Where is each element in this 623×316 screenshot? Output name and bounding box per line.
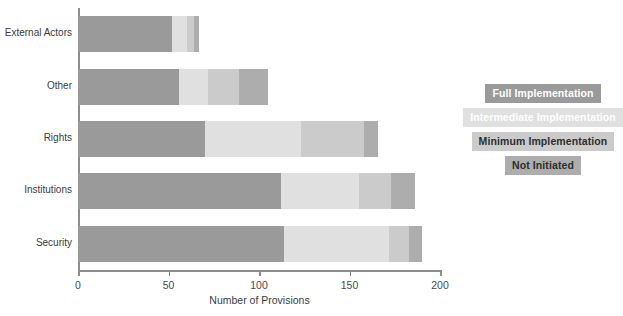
bar-segment[interactable] [391,173,415,209]
legend-item-2[interactable]: Minimum Implementation [472,132,615,151]
category-label-external-actors: External Actors [0,27,72,38]
bar-segment[interactable] [364,121,378,157]
bar-segment[interactable] [301,121,364,157]
x-axis-tick-label: 100 [250,279,268,291]
bar-segment[interactable] [172,16,186,52]
category-label-rights: Rights [0,132,72,143]
x-axis-tick [78,270,80,276]
bar-segment[interactable] [205,121,301,157]
x-axis-tick-label: 150 [341,279,359,291]
bar-segment[interactable] [208,69,239,105]
x-axis-tick [259,270,261,276]
legend-item-1[interactable]: Intermediate Implementation [463,108,623,127]
bar-external-actors[interactable] [78,16,199,52]
bar-other[interactable] [78,69,268,105]
bar-segment[interactable] [389,226,409,262]
x-axis-tick [440,270,442,276]
bar-segment[interactable] [239,69,268,105]
bar-segment[interactable] [78,16,172,52]
bar-segment[interactable] [78,173,281,209]
bar-segment[interactable] [78,121,205,157]
bar-segment[interactable] [281,173,359,209]
category-label-other: Other [0,80,72,91]
bar-institutions[interactable] [78,173,415,209]
x-axis-tick-label: 200 [431,279,449,291]
bar-segment[interactable] [78,226,284,262]
category-label-security: Security [0,237,72,248]
x-axis-tick-label: 50 [163,279,175,291]
bar-rights[interactable] [78,121,378,157]
x-axis-tick [169,270,171,276]
x-axis-tick [350,270,352,276]
x-axis-title: Number of Provisions [78,294,441,306]
legend-item-3[interactable]: Not Initiated [505,156,581,175]
x-axis-tick-label: 0 [75,279,81,291]
category-label-institutions: Institutions [0,184,72,195]
legend-item-0[interactable]: Full Implementation [485,84,600,103]
bar-segment[interactable] [359,173,392,209]
bar-segment[interactable] [78,69,179,105]
bar-segment[interactable] [194,16,199,52]
bar-security[interactable] [78,226,422,262]
chart-legend: Full Implementation Intermediate Impleme… [470,84,616,180]
bar-segment[interactable] [187,16,194,52]
bar-segment[interactable] [409,226,422,262]
bar-segment[interactable] [284,226,389,262]
bar-segment[interactable] [179,69,208,105]
